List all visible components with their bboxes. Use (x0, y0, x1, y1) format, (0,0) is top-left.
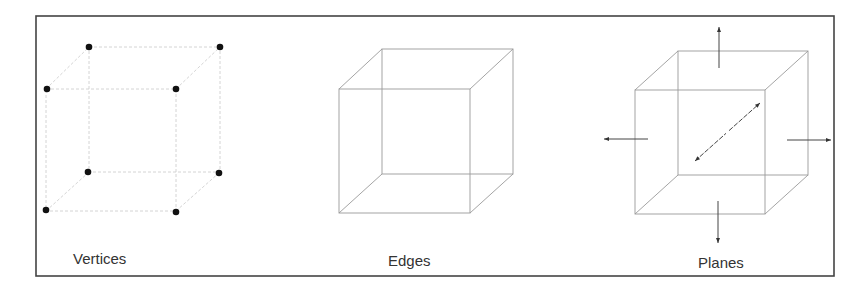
down-arrow-icon (716, 201, 720, 243)
depth-edge (176, 172, 220, 211)
vertex-dot (43, 207, 50, 214)
diagram-frame (36, 16, 834, 276)
planes-label: Planes (698, 254, 744, 271)
geometry-diagram: Vertices Edges Planes (0, 0, 866, 292)
depth-edge (46, 172, 89, 211)
front-face (339, 89, 470, 213)
planes-panel: Planes (604, 27, 831, 271)
depth-edge (635, 51, 678, 90)
edges-panel: Edges (339, 49, 513, 269)
vertex-dot (85, 169, 92, 176)
depth-edge (635, 175, 678, 214)
vertex-dot (86, 44, 93, 51)
depth-edge (470, 174, 513, 213)
left-arrow-icon (604, 137, 648, 141)
edges-cube-wireframe (339, 49, 513, 213)
depth-edge (176, 47, 220, 89)
front-face (635, 90, 765, 214)
depth-edge (765, 175, 808, 214)
back-face (89, 47, 220, 172)
depth-edge (46, 47, 89, 89)
vertex-dot (173, 86, 180, 93)
depth-edge (765, 51, 808, 90)
depth-arrow-icon (695, 103, 760, 161)
planes-cube-wireframe (635, 51, 808, 214)
edges-label: Edges (388, 252, 431, 269)
vertices-panel: Vertices (43, 44, 224, 267)
up-arrow-icon (717, 27, 721, 68)
vertex-dot (216, 170, 223, 177)
vertices-cube-wireframe (46, 47, 220, 211)
vertex-dot (217, 44, 224, 51)
front-face (46, 89, 176, 211)
plane-direction-arrows (604, 27, 831, 243)
depth-edge (339, 49, 382, 89)
depth-edge (470, 49, 513, 89)
vertices-label: Vertices (73, 250, 126, 267)
right-arrow-icon (787, 138, 831, 142)
depth-edge (339, 174, 382, 213)
vertex-dot (173, 209, 180, 216)
vertex-dot (44, 86, 51, 93)
